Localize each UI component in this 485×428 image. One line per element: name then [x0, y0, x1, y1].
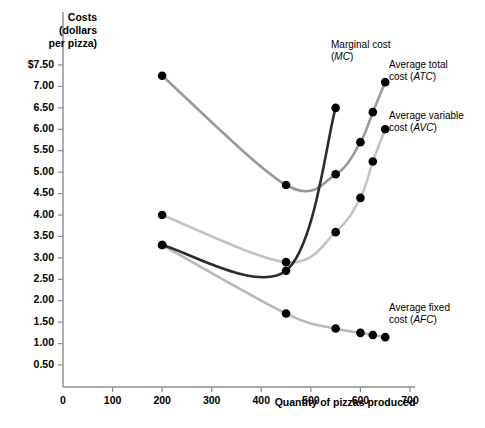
- y-tick-label: 3.00: [34, 251, 55, 263]
- data-point-atc: [369, 108, 378, 117]
- y-tick-label: 4.00: [34, 208, 55, 220]
- curve-label-line-2: cost (AFC): [389, 314, 437, 325]
- y-tick-label: 5.50: [34, 143, 55, 155]
- y-tick-label: 0.50: [34, 358, 55, 370]
- data-point-afc: [356, 329, 365, 338]
- y-tick-label: 2.00: [34, 293, 55, 305]
- curve-abbr: ATC: [412, 71, 433, 82]
- y-tick-label: 1.00: [34, 336, 55, 348]
- curve-labels: Average totalcost (ATC)Average variablec…: [331, 39, 464, 325]
- curve-paths: [162, 76, 385, 337]
- curve-abbr: AFC: [412, 314, 434, 325]
- y-tick-label: 3.50: [34, 229, 55, 241]
- x-axis-title: Quantity of pizzas produced: [275, 396, 416, 408]
- data-point-avc: [369, 157, 378, 166]
- y-axis-title: Costs (dollars per pizza): [49, 11, 98, 49]
- y-tick-label: 5.00: [34, 165, 55, 177]
- curve-label-mc: Marginal cost(MC): [331, 39, 391, 62]
- curve-label-line-1: Average total: [389, 59, 448, 70]
- y-tick-label: 7.00: [34, 79, 55, 91]
- y-tick-label: $7.50: [28, 58, 54, 70]
- y-axis-title-line-3: per pizza): [49, 37, 97, 49]
- data-point-avc: [158, 211, 167, 220]
- data-point-atc: [356, 138, 365, 147]
- y-axis-title-line-1: Costs: [68, 11, 97, 23]
- y-tick-label: 4.50: [34, 186, 55, 198]
- curve-label-line-1: Average variable: [389, 110, 464, 121]
- curve-label-line-2: cost (AVC): [389, 122, 437, 133]
- x-tick-label: 200: [153, 394, 171, 406]
- curve-label-line-2: cost (ATC): [389, 71, 436, 82]
- curve-label-atc: Average totalcost (ATC): [389, 59, 448, 82]
- curve-avc: [162, 129, 385, 262]
- data-point-afc: [282, 309, 291, 318]
- y-tick-label: 2.50: [34, 272, 55, 284]
- y-tick-label: 6.00: [34, 122, 55, 134]
- curve-abbr: AVC: [412, 122, 434, 133]
- x-tick-label: 400: [253, 394, 271, 406]
- data-point-afc: [331, 324, 340, 333]
- data-point-mc: [158, 241, 167, 250]
- data-point-mc: [282, 266, 291, 275]
- data-point-avc: [331, 228, 340, 237]
- y-tick-label: 1.50: [34, 315, 55, 327]
- cost-curves-chart: 0.501.001.502.002.503.003.504.004.505.00…: [0, 0, 485, 428]
- curve-label-line-2: (MC): [331, 51, 353, 62]
- data-point-atc: [331, 170, 340, 179]
- chart-canvas: 0.501.001.502.002.503.003.504.004.505.00…: [0, 0, 485, 428]
- data-point-avc: [356, 194, 365, 203]
- data-point-atc: [282, 181, 291, 190]
- y-tick-label: 6.50: [34, 101, 55, 113]
- x-tick-label: 300: [203, 394, 221, 406]
- data-point-avc: [282, 258, 291, 267]
- curve-label-avc: Average variablecost (AVC): [389, 110, 464, 133]
- x-tick-label: 100: [104, 394, 122, 406]
- curve-abbr: MC: [334, 51, 350, 62]
- data-point-afc: [381, 333, 390, 342]
- y-axis-title-line-2: (dollars: [59, 24, 97, 36]
- data-point-mc: [331, 104, 340, 113]
- curve-label-line-1: Marginal cost: [331, 39, 391, 50]
- curve-atc: [162, 76, 385, 192]
- y-axis-ticks: [58, 65, 63, 365]
- curve-label-line-1: Average fixed: [389, 302, 450, 313]
- x-axis-ticks: [113, 387, 410, 392]
- data-point-atc: [158, 71, 167, 80]
- y-axis-tick-labels: 0.501.001.502.002.503.003.504.004.505.00…: [28, 58, 54, 370]
- curve-label-afc: Average fixedcost (AFC): [389, 302, 450, 325]
- x-tick-label: 0: [60, 394, 66, 406]
- data-point-afc: [369, 331, 378, 340]
